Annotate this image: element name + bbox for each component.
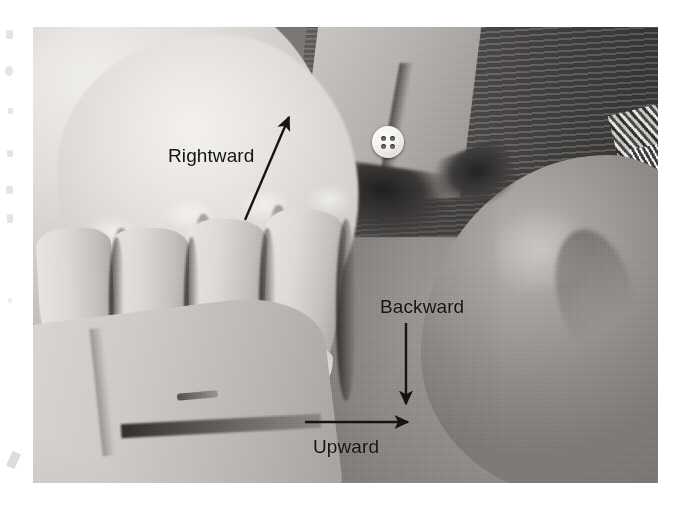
annotation-label-upward: Upward <box>313 437 379 456</box>
annotation-label-rightward: Rightward <box>168 146 254 165</box>
annotation-label-backward: Backward <box>380 297 464 316</box>
film-grain-overlay <box>33 27 658 483</box>
scan-margin-artifacts <box>0 0 30 510</box>
photo-canvas <box>33 27 658 483</box>
clinical-photograph <box>33 27 658 483</box>
figure-page: Rightward Backward Upward <box>0 0 684 510</box>
